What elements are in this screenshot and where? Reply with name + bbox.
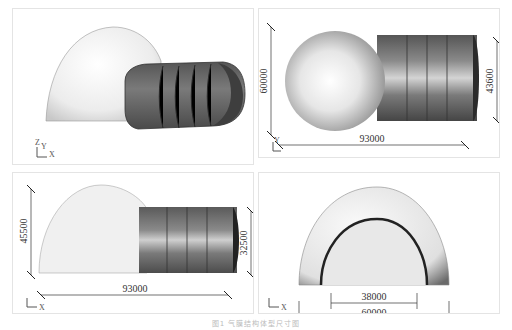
dim-tunnel-width: 43600 — [484, 69, 495, 94]
axis-triad-icon — [269, 298, 279, 307]
axis-y-label: Y — [274, 136, 280, 145]
dim-overall-length: 93000 — [123, 283, 148, 294]
dim-overall-length: 93000 — [360, 133, 385, 144]
side-view-drawing: 45500 32500 93000 X — [13, 173, 253, 313]
side-view-panel: 45500 32500 93000 X — [12, 172, 254, 314]
axis-x-label: X — [49, 150, 55, 159]
dim-dome-width: 60000 — [259, 69, 269, 94]
dim-dome-height: 45500 — [18, 219, 29, 244]
front-view-panel: 38000 60000 X — [258, 172, 500, 314]
dim-tunnel-span: 38000 — [362, 291, 387, 302]
dim-tunnel-height: 32500 — [238, 231, 249, 256]
front-view-drawing: 38000 60000 X — [259, 173, 499, 313]
axis-triad-icon — [27, 298, 37, 307]
top-view-drawing: 60000 43600 93000 Y — [259, 9, 499, 157]
axis-x-label: X — [281, 303, 287, 312]
axis-x-label: X — [39, 303, 45, 312]
dim-dome-span: 60000 — [362, 307, 387, 313]
axis-z-label: Z — [35, 138, 40, 147]
figure-caption: 图1 气膜结构体型尺寸图 — [0, 318, 512, 328]
top-view-panel: 60000 43600 93000 Y — [258, 8, 500, 158]
axis-y-label: Y — [41, 142, 47, 151]
perspective-drawing: Z Y X — [13, 9, 253, 164]
perspective-view-panel: Z Y X — [12, 8, 254, 165]
